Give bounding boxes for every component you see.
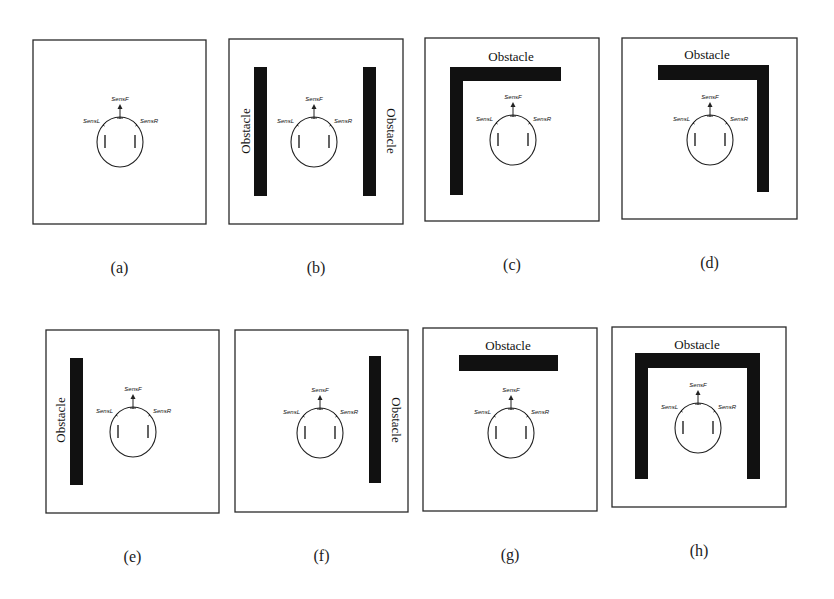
- sensor-left-label: SensL: [283, 409, 300, 415]
- panel-d: ObstacleSensFSensLSensR(d): [622, 38, 797, 272]
- sensor-right-label: SensR: [334, 118, 353, 124]
- obstacle-wall: [369, 356, 381, 483]
- sensor-left-label: SensL: [673, 116, 690, 122]
- obstacle-wall: [363, 67, 376, 196]
- panel-caption: (a): [111, 259, 129, 277]
- sensor-left-label: SensL: [83, 118, 100, 124]
- sensor-right-label: SensR: [533, 116, 552, 122]
- sensor-front-label: SensF: [124, 386, 142, 392]
- panel-caption: (e): [124, 548, 142, 566]
- sensor-front-label: SensF: [689, 382, 707, 388]
- panel-caption: (b): [307, 259, 326, 277]
- panel-caption: (h): [690, 542, 709, 560]
- sensor-front-label: SensF: [111, 96, 129, 102]
- sensor-left-label: SensL: [277, 118, 294, 124]
- obstacle-wall: [450, 67, 463, 195]
- obstacle-label: Obstacle: [53, 397, 68, 443]
- obstacle-label: Obstacle: [485, 338, 531, 353]
- sensor-front-label: SensF: [504, 94, 522, 100]
- sensor-right-label: SensR: [730, 116, 749, 122]
- sensor-front-label: SensF: [502, 387, 520, 393]
- obstacle-label: Obstacle: [238, 108, 253, 154]
- panel-caption: (d): [700, 254, 719, 272]
- panel-g: ObstacleSensFSensLSensR(g): [423, 328, 597, 564]
- panel-h: ObstacleSensFSensLSensR(h): [612, 327, 786, 560]
- obstacle-label: Obstacle: [488, 49, 534, 64]
- sensor-left-label: SensL: [661, 404, 678, 410]
- obstacle-wall: [635, 353, 760, 368]
- panel-frame: [235, 330, 408, 512]
- panel-b: ObstacleObstacleSensFSensLSensR(b): [229, 39, 403, 277]
- panel-f: ObstacleSensFSensLSensR(f): [235, 330, 408, 565]
- obstacle-wall: [450, 67, 561, 81]
- obstacle-wall: [459, 355, 558, 371]
- sensor-front-label: SensF: [701, 94, 719, 100]
- robot-obstacle-figure: SensFSensLSensR(a)ObstacleObstacleSensFS…: [0, 0, 834, 599]
- obstacle-wall: [254, 67, 267, 196]
- panel-c: ObstacleSensFSensLSensR(c): [425, 38, 599, 274]
- panel-e: ObstacleSensFSensLSensR(e): [46, 330, 219, 566]
- sensor-left-label: SensL: [96, 408, 113, 414]
- obstacle-wall: [635, 353, 648, 479]
- sensor-left-label: SensL: [474, 409, 491, 415]
- obstacle-wall: [757, 65, 769, 192]
- panel-caption: (f): [314, 547, 330, 565]
- obstacle-label: Obstacle: [389, 397, 404, 443]
- panel-caption: (g): [501, 546, 520, 564]
- obstacle-label: Obstacle: [684, 47, 730, 62]
- obstacle-wall: [70, 358, 83, 485]
- sensor-right-label: SensR: [140, 118, 159, 124]
- obstacle-wall: [747, 353, 760, 479]
- obstacle-label: Obstacle: [384, 108, 399, 154]
- sensor-right-label: SensR: [340, 409, 359, 415]
- panel-a: SensFSensLSensR(a): [33, 40, 206, 277]
- sensor-front-label: SensF: [305, 96, 323, 102]
- sensor-right-label: SensR: [153, 408, 172, 414]
- sensor-left-label: SensL: [476, 116, 493, 122]
- sensor-front-label: SensF: [311, 387, 329, 393]
- sensor-right-label: SensR: [531, 409, 550, 415]
- obstacle-label: Obstacle: [674, 337, 720, 352]
- panel-caption: (c): [503, 256, 521, 274]
- panel-frame: [33, 40, 206, 224]
- obstacle-wall: [658, 65, 769, 80]
- sensor-right-label: SensR: [718, 404, 737, 410]
